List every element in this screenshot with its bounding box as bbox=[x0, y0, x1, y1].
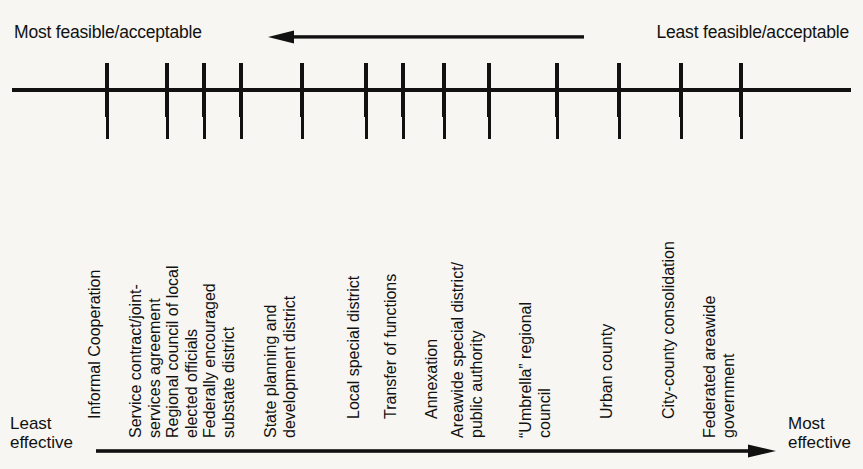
scale-tick bbox=[442, 63, 446, 117]
item-label-line: State planning and bbox=[261, 296, 280, 438]
item-label-line: Regional council of local bbox=[163, 265, 182, 438]
item-label-line: services agreement bbox=[145, 284, 164, 438]
item-label: “Umbrella” regionalcouncil bbox=[516, 302, 554, 438]
item-label: Informal Cooperation bbox=[85, 270, 104, 419]
item-label-line: Federally encouraged bbox=[200, 283, 219, 438]
least-effective-line2: effective bbox=[10, 433, 73, 452]
item-label-line: Annexation bbox=[422, 339, 441, 419]
scale-tick bbox=[239, 63, 243, 117]
item-label-line: City-county consolidation bbox=[659, 241, 678, 419]
item-leader-line bbox=[443, 117, 446, 139]
item-leader-line bbox=[240, 117, 243, 139]
item-label-line: Informal Cooperation bbox=[85, 270, 104, 419]
item-label: Annexation bbox=[422, 339, 441, 419]
most-feasible-label: Most feasible/acceptable bbox=[14, 22, 202, 43]
scale-tick bbox=[401, 63, 405, 117]
item-label-line: Urban county bbox=[597, 324, 616, 419]
item-leader-line bbox=[301, 117, 304, 139]
item-label-line: government bbox=[719, 296, 738, 438]
item-label-line: “Umbrella” regional bbox=[516, 302, 535, 438]
item-label-line: council bbox=[535, 302, 554, 438]
item-leader-line bbox=[365, 117, 368, 139]
least-effective-label: Least effective bbox=[10, 414, 73, 452]
effectiveness-arrow-icon bbox=[96, 444, 776, 458]
item-leader-line bbox=[618, 117, 621, 139]
scale-tick bbox=[739, 63, 743, 117]
scale-tick bbox=[105, 63, 109, 117]
least-feasible-label: Least feasible/acceptable bbox=[657, 22, 850, 43]
scale-axis-line bbox=[12, 88, 851, 92]
feasibility-arrow-icon bbox=[268, 30, 584, 44]
item-label-line: public authority bbox=[467, 262, 486, 438]
item-leader-line bbox=[740, 117, 743, 139]
item-label-line: Federated areawide bbox=[700, 296, 719, 438]
item-leader-line bbox=[106, 117, 109, 139]
item-leader-line bbox=[680, 117, 683, 139]
scale-tick bbox=[679, 63, 683, 117]
item-label: Urban county bbox=[597, 324, 616, 419]
item-label-line: Transfer of functions bbox=[381, 274, 400, 419]
item-label-line: elected officials bbox=[182, 265, 201, 438]
most-effective-line1: Most bbox=[788, 414, 825, 433]
most-effective-label: Most effective bbox=[788, 414, 851, 452]
item-leader-line bbox=[556, 117, 559, 139]
item-label: Regional council of localelected officia… bbox=[163, 265, 201, 438]
least-effective-line1: Least bbox=[10, 414, 52, 433]
item-label: Federally encouragedsubstate district bbox=[200, 283, 238, 438]
item-leader-line bbox=[488, 117, 491, 139]
scale-tick bbox=[555, 63, 559, 117]
item-label-line: Service contract/joint- bbox=[126, 284, 145, 438]
item-label-line: development district bbox=[280, 296, 299, 438]
most-effective-line2: effective bbox=[788, 433, 851, 452]
scale-tick bbox=[300, 63, 304, 117]
item-leader-line bbox=[166, 117, 169, 139]
item-label-line: substate district bbox=[219, 283, 238, 438]
item-label: Federated areawidegovernment bbox=[700, 296, 738, 438]
scale-tick bbox=[617, 63, 621, 117]
item-leader-line bbox=[203, 117, 206, 139]
diagram-canvas: Most feasible/acceptable Least feasible/… bbox=[0, 0, 863, 469]
scale-tick bbox=[364, 63, 368, 117]
item-label: Areawide special district/public authori… bbox=[448, 262, 486, 438]
item-label: Transfer of functions bbox=[381, 274, 400, 419]
scale-tick bbox=[202, 63, 206, 117]
item-label: Service contract/joint-services agreemen… bbox=[126, 284, 164, 438]
item-label-line: Local special district bbox=[344, 276, 363, 419]
item-label: City-county consolidation bbox=[659, 241, 678, 419]
scale-tick bbox=[165, 63, 169, 117]
item-leader-line bbox=[402, 117, 405, 139]
item-label: State planning anddevelopment district bbox=[261, 296, 299, 438]
item-label: Local special district bbox=[344, 276, 363, 419]
scale-tick bbox=[487, 63, 491, 117]
item-label-line: Areawide special district/ bbox=[448, 262, 467, 438]
